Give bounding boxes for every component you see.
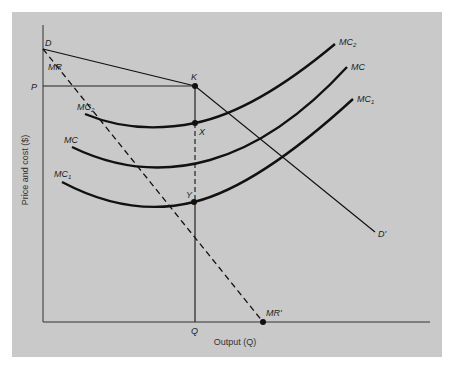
mc1-curve [62,99,353,207]
monopoly-diagram: D MR P K X Y D' MR' Q MC2 MC MC1 MC2 MC … [0,0,455,369]
label-mc1-right: MC1 [357,94,374,105]
label-mr-prime: MR' [266,308,282,318]
label-p: P [31,82,37,92]
label-d-prime: D' [378,229,386,239]
label-mc2-right: MC2 [339,37,357,48]
point-k [192,83,198,89]
label-d: D [45,38,52,48]
demand-curve [43,49,375,232]
label-k: K [191,72,198,82]
marginal-revenue-curve [43,49,263,322]
mc-curve [72,67,347,168]
label-mc-left: MC [64,135,78,145]
label-mc2-left: MC2 [77,102,95,113]
x-axis-title: Output (Q) [214,337,257,347]
label-mc1-left: MC1 [54,169,71,180]
label-y: Y [186,190,193,200]
point-x [192,120,198,126]
label-x: X [198,127,206,137]
label-mr: MR [48,62,62,72]
label-mc-right: MC [351,62,365,72]
label-q: Q [191,326,198,336]
y-axis-title: Price and cost ($) [20,135,30,206]
point-mr-prime [260,319,266,325]
